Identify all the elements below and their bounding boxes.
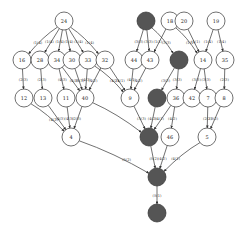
- edge-label: (4(2): [158, 157, 167, 161]
- edge-label: (2(3): [220, 78, 229, 82]
- graph-node-highlighted: [148, 204, 166, 222]
- graph-canvas: (1(4)(1(4)(1(4)(1(4)(1(4)(1(4)(3(3)(3(3)…: [0, 0, 243, 235]
- node-label: 4: [69, 134, 72, 140]
- graph-node-highlighted: [148, 89, 166, 107]
- edge-label: (1(4): [55, 40, 64, 44]
- edge-label: (3(3): [173, 78, 182, 82]
- node-label: 34: [54, 57, 60, 63]
- edge-label: (3(3): [137, 117, 146, 121]
- graph-node: 44: [125, 51, 143, 69]
- edge-label: (1(4): [74, 40, 83, 44]
- node-label: 9: [128, 95, 131, 101]
- node-label: 14: [200, 57, 206, 63]
- node-label: 35: [222, 57, 228, 63]
- node-label: 28: [37, 57, 43, 63]
- node-label: 33: [85, 57, 91, 63]
- graph-node: 24: [55, 12, 73, 30]
- graph-node: 8: [215, 89, 233, 107]
- node-circle: [170, 51, 188, 69]
- node-label: 43: [147, 57, 153, 63]
- edge-label: (3(3): [134, 40, 143, 44]
- graph-node: 5: [198, 128, 216, 146]
- edge-label: (4(2): [134, 79, 143, 83]
- edge-label: (4(2): [89, 79, 98, 83]
- node-label: 19: [213, 18, 219, 24]
- edge-n40-d4: [93, 103, 142, 133]
- edge-label: (4(3): [58, 78, 67, 82]
- graph-node: 42: [183, 89, 201, 107]
- graph-node-highlighted: [170, 51, 188, 69]
- graph-node: 11: [57, 89, 75, 107]
- edge-label: (1(4): [64, 40, 73, 44]
- node-label: 18: [167, 18, 173, 24]
- graph-node: 40: [76, 89, 94, 107]
- graph-node: 36: [167, 89, 185, 107]
- graph-node: 43: [141, 51, 159, 69]
- graph-node: 28: [31, 51, 49, 69]
- node-label: 36: [173, 95, 179, 101]
- graph-node: 4: [62, 128, 80, 146]
- edge-label: (3(3): [161, 79, 170, 83]
- graph-node-highlighted: [137, 12, 155, 30]
- edge-label: (1(4): [45, 40, 54, 44]
- node-label: 44: [131, 57, 137, 63]
- graph-node: 30: [63, 51, 81, 69]
- graph-node: 46: [161, 128, 179, 146]
- edge-label: (1(1): [153, 40, 162, 44]
- edge-label: (1(4): [204, 40, 213, 44]
- node-label: 20: [181, 18, 187, 24]
- graph-node: 9: [121, 89, 139, 107]
- node-label: 16: [19, 57, 25, 63]
- edge-label: (4(1): [155, 117, 164, 121]
- node-circle: [148, 168, 166, 186]
- edge-n4-d5: [79, 141, 149, 173]
- node-circle: [148, 89, 166, 107]
- edge-label: (4(2): [168, 117, 177, 121]
- edge-label: (2(3): [37, 78, 46, 82]
- edge-label: (2(3): [72, 117, 81, 121]
- directed-graph-diagram: (1(4)(1(4)(1(4)(1(4)(1(4)(1(4)(3(3)(3(3)…: [0, 0, 243, 235]
- edge-label: (5(2): [122, 158, 131, 162]
- edge-label: (4(1): [171, 157, 180, 161]
- node-circle: [140, 128, 158, 146]
- edge-label: (3(3): [192, 78, 201, 82]
- edge-label: (3(3): [202, 78, 211, 82]
- node-circle: [137, 12, 155, 30]
- edge-label: (5(1): [153, 194, 162, 198]
- node-label: 40: [82, 95, 88, 101]
- node-label: 46: [167, 134, 173, 140]
- node-label: 24: [61, 18, 67, 24]
- node-label: 13: [40, 95, 46, 101]
- edge-label: (1(4): [217, 40, 226, 44]
- edge-label: (3(2): [209, 117, 218, 121]
- graph-node: 7: [199, 89, 217, 107]
- graph-node: 12: [15, 89, 33, 107]
- node-label: 12: [21, 95, 27, 101]
- graph-node: 13: [34, 89, 52, 107]
- node-label: 32: [102, 57, 108, 63]
- node-label: 11: [63, 95, 69, 101]
- graph-node: 20: [175, 12, 193, 30]
- graph-node: 14: [194, 51, 212, 69]
- node-label: 7: [206, 95, 209, 101]
- node-label: 8: [222, 95, 225, 101]
- graph-node: 33: [79, 51, 97, 69]
- graph-node: 16: [13, 51, 31, 69]
- node-label: 30: [69, 57, 75, 63]
- edge-n5-d5: [164, 143, 200, 172]
- edge-label: (3(3): [144, 40, 153, 44]
- graph-node: 32: [96, 51, 114, 69]
- node-label: 42: [189, 95, 195, 101]
- node-circle: [148, 204, 166, 222]
- edge-label: (1(1): [191, 40, 200, 44]
- edge-label: (1(4): [85, 41, 94, 45]
- node-label: 5: [205, 134, 208, 140]
- graph-node-highlighted: [148, 168, 166, 186]
- edge-label: (2(3): [19, 78, 28, 82]
- graph-node: 19: [207, 12, 225, 30]
- edge-label: (4(1): [116, 79, 125, 83]
- edge-label: (3(3): [162, 41, 171, 45]
- graph-node-highlighted: [140, 128, 158, 146]
- edge-label: (1(4): [33, 41, 42, 45]
- graph-node: 35: [216, 51, 234, 69]
